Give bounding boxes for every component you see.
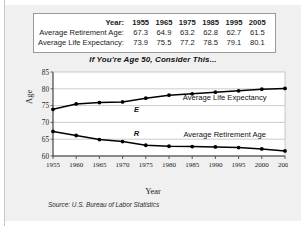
x-tick-label: 2000 bbox=[255, 161, 269, 169]
data-point-marker bbox=[237, 89, 241, 93]
data-point-marker bbox=[260, 87, 264, 91]
data-point-marker bbox=[167, 93, 171, 97]
table-header-year: 1955 bbox=[129, 17, 152, 27]
data-point-marker bbox=[283, 149, 287, 153]
data-point-marker bbox=[167, 144, 171, 148]
table-header-row: Year: 1955 1965 1975 1985 1995 2005 bbox=[38, 17, 269, 27]
data-point-marker bbox=[121, 140, 125, 144]
table-cell: 61.5 bbox=[246, 27, 269, 37]
data-point-marker bbox=[51, 130, 55, 134]
table-header-year: 1995 bbox=[222, 17, 245, 27]
x-axis-label: Year bbox=[0, 186, 306, 196]
table-header-year: 2005 bbox=[246, 17, 269, 27]
data-table: Year: 1955 1965 1975 1985 1995 2005 Aver… bbox=[33, 13, 276, 53]
table-cell: 67.3 bbox=[129, 27, 152, 37]
frame-edge-top bbox=[0, 0, 306, 5]
data-point-marker bbox=[144, 96, 148, 100]
x-tick-label: 2005 bbox=[278, 161, 288, 169]
data-point-marker bbox=[214, 145, 218, 149]
series-marker-label: R bbox=[134, 129, 140, 138]
table-cell: 62.7 bbox=[222, 27, 245, 37]
table-row: Average Life Expectancy: 73.9 75.5 77.2 … bbox=[38, 37, 269, 47]
y-tick-label: 60 bbox=[42, 153, 50, 161]
x-tick-label: 1985 bbox=[185, 161, 200, 169]
x-tick-label: 1970 bbox=[116, 161, 131, 169]
y-tick-label: 65 bbox=[42, 136, 50, 144]
data-point-marker bbox=[237, 146, 241, 150]
table-cell: 62.8 bbox=[199, 27, 222, 37]
plot-background bbox=[53, 72, 285, 156]
x-tick-label: 1990 bbox=[208, 161, 223, 169]
table-row-label: Average Retirement Age: bbox=[38, 27, 129, 37]
y-tick-label: 85 bbox=[42, 69, 50, 77]
table-row-label: Average Life Expectancy: bbox=[38, 37, 129, 47]
data-point-marker bbox=[74, 134, 78, 138]
chart-plot-area: 6065707580851955196019651970197519801985… bbox=[30, 66, 288, 174]
data-point-marker bbox=[98, 138, 102, 142]
line-chart-svg: 6065707580851955196019651970197519801985… bbox=[30, 66, 288, 174]
x-tick-label: 1960 bbox=[69, 161, 84, 169]
data-point-marker bbox=[260, 147, 264, 151]
table-header-year: 1975 bbox=[176, 17, 199, 27]
table-cell: 73.9 bbox=[129, 37, 152, 47]
chart-title: If You're Age 50, Consider This... bbox=[0, 55, 306, 64]
data-point-marker bbox=[121, 100, 125, 104]
x-tick-label: 1980 bbox=[162, 161, 177, 169]
table-cell: 77.2 bbox=[176, 37, 199, 47]
table-cell: 63.2 bbox=[176, 27, 199, 37]
table-cell: 75.5 bbox=[152, 37, 175, 47]
data-point-marker bbox=[190, 145, 194, 149]
frame-edge-bottom bbox=[0, 221, 306, 226]
data-point-marker bbox=[74, 102, 78, 106]
y-axis-label: Age bbox=[24, 90, 34, 104]
y-tick-label: 80 bbox=[42, 86, 50, 94]
table-cell: 79.1 bbox=[222, 37, 245, 47]
series-inline-label: Average Retirement Age bbox=[183, 130, 266, 139]
x-tick-label: 1965 bbox=[92, 161, 107, 169]
table-header-label: Year: bbox=[38, 17, 129, 27]
x-tick-label: 1975 bbox=[139, 161, 154, 169]
year-value-table: Year: 1955 1965 1975 1985 1995 2005 Aver… bbox=[38, 17, 269, 48]
table-header-year: 1965 bbox=[152, 17, 175, 27]
y-tick-label: 70 bbox=[42, 119, 50, 127]
y-tick-label: 75 bbox=[42, 102, 50, 110]
table-cell: 78.5 bbox=[199, 37, 222, 47]
data-point-marker bbox=[51, 107, 55, 111]
data-point-marker bbox=[98, 101, 102, 105]
x-tick-label: 1955 bbox=[46, 161, 61, 169]
table-cell: 80.1 bbox=[246, 37, 269, 47]
data-point-marker bbox=[283, 87, 287, 91]
table-header-year: 1985 bbox=[199, 17, 222, 27]
source-note: Source: U.S. Bureau of Labor Statistics bbox=[48, 201, 159, 208]
table-cell: 64.9 bbox=[152, 27, 175, 37]
table-row: Average Retirement Age: 67.3 64.9 63.2 6… bbox=[38, 27, 269, 37]
x-tick-label: 1995 bbox=[232, 161, 247, 169]
figure-panel: Year: 1955 1965 1975 1985 1995 2005 Aver… bbox=[0, 0, 306, 226]
series-inline-label: Average Life Expectancy bbox=[183, 93, 267, 102]
data-point-marker bbox=[144, 143, 148, 147]
